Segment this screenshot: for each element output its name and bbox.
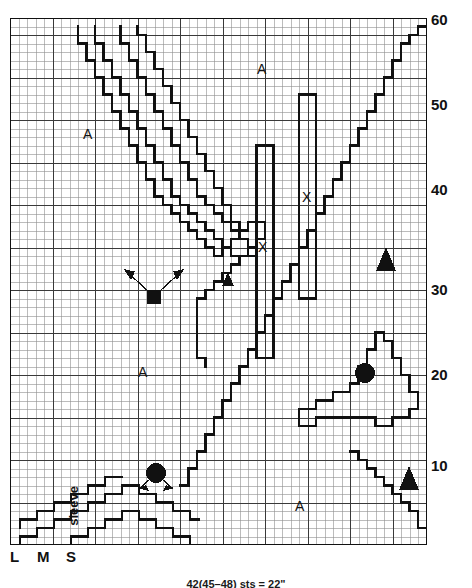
square-symbol-arrows xyxy=(125,270,183,290)
chart-caption: 42(45–48) sts = 22" xyxy=(0,578,472,588)
triangle-symbol-upper-right xyxy=(376,247,396,271)
y-axis-tick-30: 30 xyxy=(431,282,447,297)
pattern-shaping-lines xyxy=(10,18,427,545)
pyramid-base-right xyxy=(299,418,376,427)
circle-symbol-right xyxy=(355,363,375,383)
triangle-symbol-lower-right xyxy=(399,466,419,490)
marker-label-a-1: A xyxy=(83,127,92,141)
sleeve-label: sleeve xyxy=(66,486,81,526)
pattern-grid-chart: A A A A X X sleeve xyxy=(10,18,427,545)
square-symbol xyxy=(147,290,161,304)
marker-label-a-2: A xyxy=(257,62,266,76)
chevron-line-2 xyxy=(95,27,240,265)
y-axis-tick-50: 50 xyxy=(431,97,447,112)
size-label-l: L xyxy=(10,549,19,564)
y-axis-tick-20: 20 xyxy=(431,367,447,382)
marker-label-x-2: X xyxy=(302,190,311,204)
marker-label-a-4: A xyxy=(295,499,304,513)
triangle-symbol-center xyxy=(222,272,234,286)
lower-left-line-3 xyxy=(71,511,190,545)
y-axis-tick-10: 10 xyxy=(431,458,447,473)
y-axis-tick-60: 60 xyxy=(431,12,447,27)
marker-label-a-3: A xyxy=(138,365,147,379)
chart-page: A A A A X X sleeve 60 50 40 30 20 10 L M… xyxy=(0,0,472,588)
size-label-m: M xyxy=(37,549,50,564)
body-left-edge xyxy=(197,307,206,367)
size-label-s: S xyxy=(66,549,76,564)
marker-label-x-1: X xyxy=(258,240,267,254)
y-axis-tick-40: 40 xyxy=(431,182,447,197)
